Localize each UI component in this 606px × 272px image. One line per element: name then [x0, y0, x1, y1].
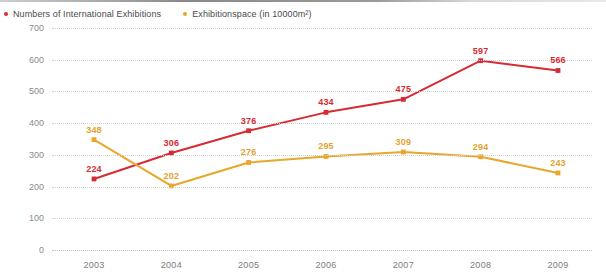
- legend-item-exhibitions[interactable]: Numbers of International Exhibitions: [4, 9, 161, 19]
- y-axis-tick-label: 300: [0, 150, 44, 160]
- top-divider: [0, 0, 606, 2]
- series-line: [94, 61, 558, 179]
- gridline: [52, 187, 592, 189]
- y-axis-tick-label: 700: [0, 23, 44, 33]
- y-axis-tick-label: 500: [0, 86, 44, 96]
- data-point-marker[interactable]: [556, 68, 561, 73]
- legend-marker-icon: [183, 12, 187, 16]
- plot-area: 0100200300400500600700200320042005200620…: [52, 28, 592, 250]
- legend-marker-icon: [4, 12, 8, 16]
- data-point-marker[interactable]: [246, 128, 251, 133]
- data-point-marker[interactable]: [556, 171, 561, 176]
- legend-spacer: [161, 14, 183, 15]
- gridline: [52, 91, 592, 93]
- x-axis-tick-label: 2008: [470, 260, 491, 270]
- data-point-label: 202: [164, 171, 180, 181]
- data-point-label: 224: [86, 164, 102, 174]
- data-point-label: 348: [86, 125, 102, 135]
- gridline: [52, 155, 592, 157]
- gridline: [52, 123, 592, 125]
- data-point-marker[interactable]: [401, 150, 406, 155]
- gridline: [52, 28, 592, 30]
- gridline: [52, 218, 592, 220]
- x-axis-tick-label: 2003: [83, 260, 104, 270]
- x-axis-tick-label: 2007: [393, 260, 414, 270]
- chart-legend: Numbers of International Exhibitions Exh…: [4, 7, 312, 21]
- y-axis-tick-label: 200: [0, 182, 44, 192]
- legend-label: Exhibitionspace (in 10000m²): [192, 9, 311, 19]
- line-chart: Numbers of International Exhibitions Exh…: [0, 0, 606, 272]
- y-axis-tick-label: 100: [0, 213, 44, 223]
- gridline: [52, 250, 592, 252]
- x-axis-tick-label: 2006: [315, 260, 336, 270]
- data-point-label: 295: [318, 141, 334, 151]
- data-point-label: 475: [396, 84, 412, 94]
- data-point-label: 434: [318, 97, 334, 107]
- data-point-label: 243: [550, 158, 566, 168]
- y-axis-tick-label: 400: [0, 118, 44, 128]
- x-axis-tick-label: 2004: [161, 260, 182, 270]
- data-point-marker[interactable]: [246, 160, 251, 165]
- legend-label: Numbers of International Exhibitions: [13, 9, 161, 19]
- data-point-label: 276: [241, 147, 257, 157]
- legend-item-exhibitionspace[interactable]: Exhibitionspace (in 10000m²): [183, 9, 311, 19]
- data-point-label: 309: [396, 137, 412, 147]
- data-point-label: 376: [241, 116, 257, 126]
- data-point-marker[interactable]: [92, 137, 97, 142]
- gridline: [52, 60, 592, 62]
- y-axis-tick-label: 0: [0, 245, 44, 255]
- data-point-label: 597: [473, 46, 489, 56]
- data-point-label: 306: [164, 138, 180, 148]
- data-point-label: 294: [473, 142, 489, 152]
- y-axis-tick-label: 600: [0, 55, 44, 65]
- data-point-marker[interactable]: [92, 177, 97, 182]
- data-point-marker[interactable]: [324, 110, 329, 115]
- data-point-label: 566: [550, 55, 566, 65]
- data-point-marker[interactable]: [401, 97, 406, 102]
- x-axis-tick-label: 2005: [238, 260, 259, 270]
- x-axis-tick-label: 2009: [547, 260, 568, 270]
